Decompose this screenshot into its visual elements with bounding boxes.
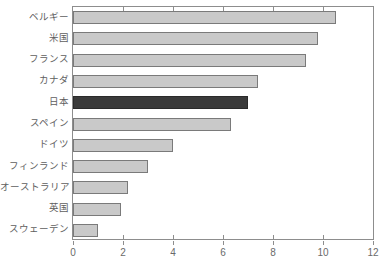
- x-tick-label: 0: [58, 247, 88, 259]
- bar: [73, 118, 231, 131]
- x-tick-label: 4: [158, 247, 188, 259]
- x-tick-mark: [73, 241, 74, 245]
- x-tick-label: 6: [208, 247, 238, 259]
- category-label: フィンランド: [0, 161, 69, 171]
- x-tick-label: 12: [358, 247, 387, 259]
- plot-area: [73, 7, 373, 239]
- bar: [73, 224, 98, 237]
- x-tick-bottom: [123, 235, 124, 239]
- category-label: 米国: [0, 33, 69, 43]
- x-tick-label: 10: [308, 247, 338, 259]
- bar: [73, 203, 121, 216]
- bar: [73, 54, 306, 67]
- x-tick-top: [323, 7, 324, 11]
- category-label: ドイツ: [0, 139, 69, 149]
- bar: [73, 96, 248, 109]
- bar: [73, 11, 336, 24]
- plot-frame: [72, 6, 374, 240]
- bar: [73, 75, 258, 88]
- x-tick-bottom: [223, 235, 224, 239]
- x-tick-label: 2: [108, 247, 138, 259]
- x-tick-bottom: [173, 235, 174, 239]
- bar: [73, 181, 128, 194]
- x-tick-top: [273, 7, 274, 11]
- category-label: カナダ: [0, 75, 69, 85]
- category-axis: ベルギー米国フランスカナダ日本スペインドイツフィンランドオーストラリア英国スウェ…: [0, 6, 69, 240]
- category-label: 日本: [0, 97, 69, 107]
- x-tick-top: [223, 7, 224, 11]
- x-tick-mark: [223, 241, 224, 245]
- x-tick-mark: [373, 241, 374, 245]
- x-tick-mark: [273, 241, 274, 245]
- bar-chart: ベルギー米国フランスカナダ日本スペインドイツフィンランドオーストラリア英国スウェ…: [0, 0, 387, 271]
- x-tick-top: [173, 7, 174, 11]
- x-tick-top: [123, 7, 124, 11]
- category-label: オーストラリア: [0, 182, 69, 192]
- x-tick-mark: [123, 241, 124, 245]
- x-tick-mark: [323, 241, 324, 245]
- bar: [73, 32, 318, 45]
- x-tick-label: 8: [258, 247, 288, 259]
- bar: [73, 160, 148, 173]
- category-label: 英国: [0, 203, 69, 213]
- category-label: スペイン: [0, 118, 69, 128]
- category-label: ベルギー: [0, 12, 69, 22]
- category-label: フランス: [0, 54, 69, 64]
- category-label: スウェーデン: [0, 224, 69, 234]
- x-tick-mark: [173, 241, 174, 245]
- bar: [73, 139, 173, 152]
- x-tick-bottom: [323, 235, 324, 239]
- x-tick-bottom: [273, 235, 274, 239]
